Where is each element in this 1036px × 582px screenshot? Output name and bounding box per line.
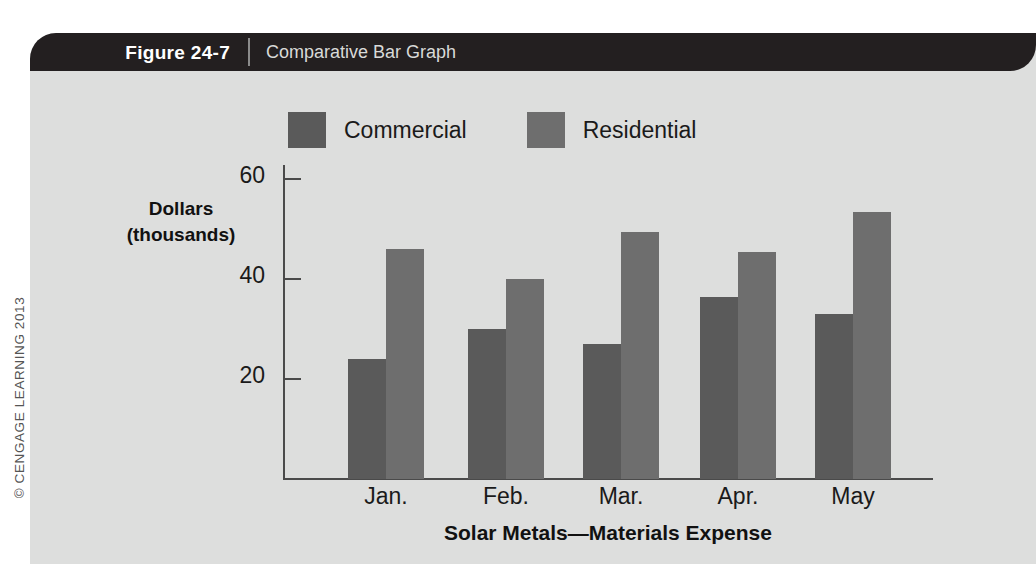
y-axis-tick-label: 40 bbox=[205, 262, 265, 289]
y-axis-line bbox=[283, 165, 285, 479]
y-axis-tick bbox=[285, 378, 301, 380]
legend-label-residential: Residential bbox=[583, 117, 697, 144]
bar-residential-apr bbox=[738, 252, 776, 480]
y-axis-tick-label: 60 bbox=[205, 162, 265, 189]
y-axis-title: Dollars (thousands) bbox=[96, 196, 266, 248]
x-axis-tick-label: Apr. bbox=[678, 483, 798, 510]
bar-commercial-feb bbox=[468, 329, 506, 479]
legend-item-residential: Residential bbox=[527, 112, 697, 148]
chart-legend: Commercial Residential bbox=[288, 110, 696, 150]
bar-commercial-mar bbox=[583, 344, 621, 479]
x-axis-tick-label: Jan. bbox=[326, 483, 446, 510]
legend-item-commercial: Commercial bbox=[288, 112, 467, 148]
y-axis-tick-label: 20 bbox=[205, 362, 265, 389]
bar-residential-feb bbox=[506, 279, 544, 479]
bar-residential-may bbox=[853, 212, 891, 480]
y-axis-title-line-2: (thousands) bbox=[96, 222, 266, 248]
bar-residential-jan bbox=[386, 249, 424, 479]
bar-commercial-jan bbox=[348, 359, 386, 479]
x-axis-tick-label: Mar. bbox=[561, 483, 681, 510]
x-axis-title: Solar Metals—Materials Expense bbox=[283, 521, 933, 545]
figure-screenshot: Figure 24-7 Comparative Bar Graph © CENG… bbox=[0, 0, 1036, 582]
y-axis-tick bbox=[285, 278, 301, 280]
x-axis-tick-label: Feb. bbox=[446, 483, 566, 510]
legend-swatch-residential bbox=[527, 112, 565, 148]
legend-swatch-commercial bbox=[288, 112, 326, 148]
bar-commercial-apr bbox=[700, 297, 738, 480]
copyright-notice: © CENGAGE LEARNING 2013 bbox=[12, 283, 27, 513]
y-axis-title-line-1: Dollars bbox=[96, 196, 266, 222]
header-divider bbox=[248, 38, 250, 66]
legend-label-commercial: Commercial bbox=[344, 117, 467, 144]
bar-residential-mar bbox=[621, 232, 659, 480]
bar-commercial-may bbox=[815, 314, 853, 479]
x-axis-tick-label: May bbox=[793, 483, 913, 510]
figure-number-label: Figure 24-7 bbox=[70, 40, 230, 65]
plot-area: 204060Jan.Feb.Mar.Apr.May bbox=[283, 165, 933, 479]
y-axis-tick bbox=[285, 178, 301, 180]
figure-title: Comparative Bar Graph bbox=[266, 40, 456, 65]
